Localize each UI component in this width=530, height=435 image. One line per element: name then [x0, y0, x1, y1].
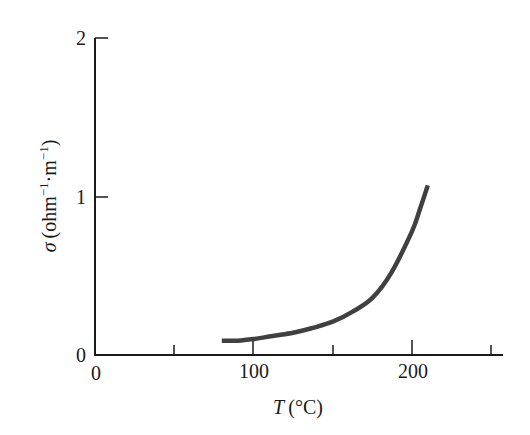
y-axis-label: σ(ohm−1·m−1)	[36, 140, 61, 253]
conductivity-curve	[222, 185, 428, 340]
y-tick-label-1: 1	[76, 186, 86, 208]
x-tick-label-200: 200	[398, 360, 428, 382]
x-axis-label: T(°C)	[273, 396, 323, 419]
y-tick-label-2: 2	[76, 27, 86, 49]
x-tick-label-0: 0	[91, 362, 101, 384]
x-tick-label-100: 100	[239, 360, 269, 382]
chart: 2 1 0 0 100 200 T(°C) σ(ohm−1·m−1)	[0, 0, 530, 435]
y-tick-label-0: 0	[76, 344, 86, 366]
